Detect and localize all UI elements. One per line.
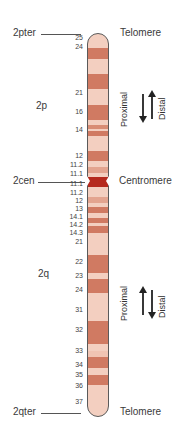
band-q36 <box>88 375 108 385</box>
band-label: 11.1 <box>61 180 83 188</box>
band-q22 <box>88 255 108 273</box>
band-label: 12 <box>61 197 83 205</box>
band-label: 12 <box>61 152 83 160</box>
band-p15 <box>88 125 108 129</box>
band-label: 14.2 <box>61 221 83 229</box>
band-p22 <box>88 74 108 89</box>
band-label: 14 <box>61 126 83 134</box>
p-arm-label: 2p <box>36 100 47 111</box>
band-label: 21 <box>61 238 83 246</box>
chromosome-2-ideogram <box>87 33 109 417</box>
band-label: 31 <box>61 306 83 314</box>
centromere-notch-right <box>106 176 109 186</box>
telomere-bottom-label: Telomere <box>120 406 161 417</box>
p-proximal-label: Proximal <box>119 92 129 127</box>
band-p11-2 <box>88 167 108 173</box>
band-label: 23 <box>61 272 83 280</box>
band-label: 34 <box>61 361 83 369</box>
q-proximal-label: Proximal <box>119 286 129 321</box>
band-label: 32 <box>61 326 83 334</box>
pter-label: 2pter <box>13 27 36 38</box>
band-label: 24 <box>61 43 83 51</box>
band-p16 <box>88 105 108 120</box>
band-q14-1 <box>88 218 108 223</box>
band-label: 16 <box>61 108 83 116</box>
band-q12 <box>88 207 108 213</box>
p-arrow-down-icon <box>139 94 147 124</box>
band-q11-2 <box>88 197 108 203</box>
q-arrow-down-icon <box>148 290 156 320</box>
band-q24 <box>88 279 108 293</box>
qter-label: 2qter <box>13 406 36 417</box>
cen-label: 2cen <box>13 175 35 186</box>
q-arrow-up-icon <box>139 285 147 315</box>
telomere-top-label: Telomere <box>120 27 161 38</box>
band-label: 14.1 <box>61 213 83 221</box>
q-distal-label: Distal <box>157 295 167 318</box>
band-label: 11.2 <box>61 189 83 197</box>
band-label: 21 <box>61 89 83 97</box>
band-q32 <box>88 321 108 344</box>
band-label: 11.2 <box>61 161 83 169</box>
centromere-label: Centromere <box>119 175 172 186</box>
band-q34 <box>88 357 108 368</box>
band-p12 <box>88 151 108 161</box>
band-label: 37 <box>61 398 83 406</box>
band-p14 <box>88 131 108 136</box>
band-label: 36 <box>61 382 83 390</box>
p-distal-label: Distal <box>157 97 167 120</box>
band-label: 22 <box>61 258 83 266</box>
centromere-notch-left <box>87 176 90 186</box>
band-label: 25 <box>61 34 83 42</box>
q-arm-label: 2q <box>38 268 49 279</box>
band-label: 11.1 <box>61 170 83 178</box>
band-label: 33 <box>61 347 83 355</box>
band-centromere <box>88 177 108 187</box>
p-arrow-up-icon <box>148 89 156 119</box>
band-p24 <box>88 48 108 59</box>
band-label: 14.3 <box>61 229 83 237</box>
band-label: 35 <box>61 371 83 379</box>
qter-rule <box>41 413 81 414</box>
band-q14-3 <box>88 226 108 233</box>
band-label: 13 <box>61 205 83 213</box>
band-label: 24 <box>61 286 83 294</box>
